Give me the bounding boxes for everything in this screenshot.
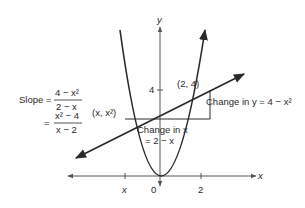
change-in-x-label-line1: Change in x bbox=[137, 124, 188, 135]
slope-denominator-2: x − 2 bbox=[56, 124, 77, 135]
slope-equals: = bbox=[44, 117, 50, 128]
y-tick-label-4: 4 bbox=[149, 84, 154, 95]
slope-label: Slope = bbox=[19, 94, 52, 105]
change-in-x-label-line2: = 2 − x bbox=[145, 135, 174, 146]
x-tick-label-x: x bbox=[121, 184, 128, 195]
point-label-right: (2, 4) bbox=[177, 78, 199, 89]
slope-numerator-2: x² − 4 bbox=[55, 110, 79, 121]
slope-numerator-1: 4 − x² bbox=[55, 87, 79, 98]
x-tick-label-2: 2 bbox=[198, 184, 203, 195]
parabola-curve bbox=[120, 30, 205, 176]
secant-line-diagram: y x x 0 2 4 (x, x²) (2, 4) Change in y =… bbox=[0, 0, 305, 208]
change-in-y-label: Change in y = 4 − x² bbox=[206, 96, 292, 107]
point-label-left: (x, x²) bbox=[92, 107, 116, 118]
y-axis-label: y bbox=[156, 14, 163, 25]
x-axis-label: x bbox=[257, 170, 264, 181]
x-tick-label-0: 0 bbox=[151, 184, 156, 195]
